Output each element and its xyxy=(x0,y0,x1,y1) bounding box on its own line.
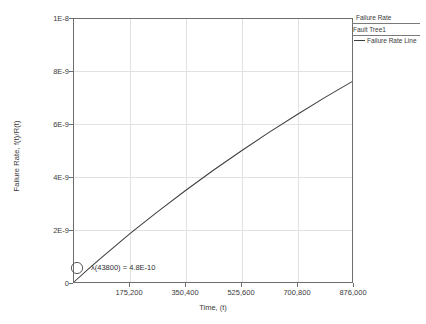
plot-area xyxy=(73,18,353,283)
x-tick-mark xyxy=(185,283,186,287)
y-tick-label: 1E-8 xyxy=(53,14,69,23)
y-axis-title: Failure Rate, f(t)/R(t) xyxy=(12,0,21,96)
failure-rate-curve xyxy=(74,19,352,282)
y-tick-label: 6E-9 xyxy=(53,120,69,129)
legend-group-label: Fault Tree1 xyxy=(352,24,422,35)
x-tick-mark xyxy=(129,283,130,287)
failure-rate-chart: 1E-8 8E-9 6E-9 4E-9 2E-9 0 Failure Rate,… xyxy=(0,0,426,324)
x-tick-mark xyxy=(353,283,354,287)
y-tick-label: 8E-9 xyxy=(53,67,69,76)
legend-title: Failure Rate xyxy=(352,14,422,23)
legend-item-label: Failure Rate Line xyxy=(367,37,417,44)
y-axis-title-text: Failure Rate, f(t)/R(t) xyxy=(12,96,21,216)
y-tick-label: 2E-9 xyxy=(53,226,69,235)
x-tick-label: 525,600 xyxy=(211,288,271,297)
x-tick-label: 350,400 xyxy=(155,288,215,297)
x-axis-title: Time, (t) xyxy=(73,303,353,312)
x-tick-label: 876,000 xyxy=(323,288,383,297)
y-tick-mark xyxy=(69,283,73,284)
x-tick-label: 700,800 xyxy=(267,288,327,297)
x-tick-label: 175,200 xyxy=(99,288,159,297)
legend-line-swatch xyxy=(354,40,365,41)
lambda-annotation-label: λ(43800) = 4.8E-10 xyxy=(91,263,155,272)
annotation-marker-icon xyxy=(70,261,84,275)
x-tick-mark xyxy=(241,283,242,287)
y-tick-label: 4E-9 xyxy=(53,173,69,182)
legend-item-failure-rate-line[interactable]: Failure Rate Line xyxy=(352,36,422,46)
x-tick-mark xyxy=(297,283,298,287)
legend: Failure Rate Fault Tree1 Failure Rate Li… xyxy=(352,14,422,46)
